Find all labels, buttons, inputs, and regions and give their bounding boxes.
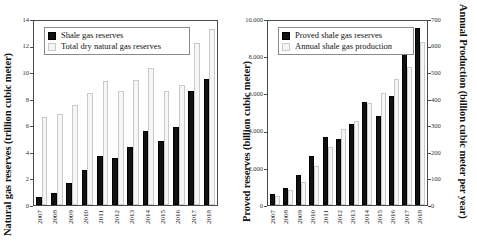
bar-2011-secondary bbox=[328, 147, 333, 205]
right-chart-secondary-axis-title: Annual Production (billion cubic meter p… bbox=[458, 4, 469, 247]
right-chart-right-y-tick-label: 700 bbox=[431, 17, 457, 24]
right-chart-left-y-tick-mark bbox=[264, 57, 267, 58]
bar-2013-secondary bbox=[354, 121, 359, 205]
left-chart-y-tick-mark bbox=[30, 47, 33, 48]
left-chart-x-tick-label: 2010 bbox=[83, 210, 90, 224]
right-chart-x-tick-label: 2015 bbox=[377, 210, 384, 224]
right-chart-panel: Proved reserves (billion cubic meter) 02… bbox=[240, 0, 477, 251]
right-chart-left-y-tick-mark bbox=[264, 132, 267, 133]
right-chart-legend-entry: Annual shale gas production bbox=[282, 41, 409, 52]
right-chart-right-y-tick-label: 100 bbox=[431, 176, 457, 183]
left-chart-y-tick-mark bbox=[30, 73, 33, 74]
right-chart-right-y-tick-label: 300 bbox=[431, 123, 457, 130]
right-chart-x-tick-label: 2010 bbox=[310, 210, 317, 224]
right-chart-right-y-tick-mark bbox=[428, 206, 431, 207]
right-chart-x-tick-label: 2013 bbox=[350, 210, 357, 224]
right-chart-y-axis-title: Proved reserves (billion cubic meter) bbox=[241, 22, 252, 222]
bar-2014-secondary bbox=[148, 68, 154, 205]
bar-2017-secondary bbox=[407, 67, 412, 205]
right-chart-left-y-tick-label: 10.000 bbox=[237, 17, 263, 24]
right-chart-legend-entry: Proved shale gas reserves bbox=[282, 30, 409, 41]
left-chart-legend-entry: Total dry natural gas reserves bbox=[48, 41, 185, 52]
bar-2015-secondary bbox=[381, 93, 386, 205]
left-chart-y-tick-label: 14 bbox=[3, 17, 29, 24]
bar-2012-secondary bbox=[341, 129, 346, 205]
bar-2013-secondary bbox=[133, 80, 139, 205]
left-chart-y-tick-mark bbox=[30, 126, 33, 127]
right-chart-right-y-tick-mark bbox=[428, 47, 431, 48]
left-chart-x-tick-label: 2016 bbox=[175, 210, 182, 224]
right-chart-x-tick-label: 2008 bbox=[283, 210, 290, 224]
left-chart-y-tick-mark bbox=[30, 20, 33, 21]
figure-page: Natural gas reserves (trillion cubic met… bbox=[0, 0, 477, 251]
left-chart-y-tick-mark bbox=[30, 179, 33, 180]
right-chart-x-tick-label: 2011 bbox=[323, 210, 330, 224]
right-chart-x-tick-label: 2018 bbox=[417, 210, 424, 224]
bar-2008-secondary bbox=[57, 114, 63, 205]
right-chart-right-y-tick-label: 200 bbox=[431, 150, 457, 157]
left-chart-y-tick-label: 2 bbox=[3, 176, 29, 183]
right-chart-left-y-tick-label: 6.000 bbox=[237, 91, 263, 98]
bar-2007-secondary bbox=[275, 196, 280, 205]
right-chart-x-tick-label: 2012 bbox=[337, 210, 344, 224]
right-chart-left-y-tick-label: 0 bbox=[237, 203, 263, 210]
left-chart-y-tick-mark bbox=[30, 153, 33, 154]
left-chart-y-tick-mark bbox=[30, 100, 33, 101]
left-chart-y-tick-label: 6 bbox=[3, 123, 29, 130]
right-chart-legend: Proved shale gas reservesAnnual shale ga… bbox=[278, 27, 414, 55]
left-chart-x-tick-label: 2015 bbox=[160, 210, 167, 224]
right-chart-x-tick-label: 2009 bbox=[297, 210, 304, 224]
right-chart-left-y-tick-mark bbox=[264, 94, 267, 95]
right-chart-right-y-tick-mark bbox=[428, 153, 431, 154]
bar-2009-secondary bbox=[301, 182, 306, 205]
left-chart-y-tick-label: 0 bbox=[3, 203, 29, 210]
left-chart-x-tick-label: 2007 bbox=[37, 210, 44, 224]
right-chart-right-y-tick-mark bbox=[428, 100, 431, 101]
left-chart-x-tick-label: 2017 bbox=[191, 210, 198, 224]
right-chart-right-y-tick-label: 0 bbox=[431, 203, 457, 210]
right-chart-legend-label: Annual shale gas production bbox=[295, 42, 392, 51]
bar-2008-secondary bbox=[288, 190, 293, 205]
legend-light-swatch-icon bbox=[282, 43, 290, 51]
right-chart-right-y-tick-mark bbox=[428, 126, 431, 127]
right-chart-left-y-tick-mark bbox=[264, 20, 267, 21]
left-chart-x-tick-label: 2014 bbox=[145, 210, 152, 224]
bar-2014-secondary bbox=[367, 103, 372, 206]
right-chart-x-tick-label: 2016 bbox=[390, 210, 397, 224]
right-chart-left-y-tick-mark bbox=[264, 206, 267, 207]
right-chart-x-tick-label: 2014 bbox=[364, 210, 371, 224]
right-chart-right-y-tick-label: 600 bbox=[431, 43, 457, 50]
legend-dark-swatch-icon bbox=[282, 32, 290, 40]
bar-2012-secondary bbox=[118, 91, 124, 205]
right-chart-left-y-tick-label: 4.000 bbox=[237, 128, 263, 135]
right-chart-right-y-tick-label: 500 bbox=[431, 70, 457, 77]
bar-2015-secondary bbox=[164, 91, 170, 205]
right-chart-left-y-tick-mark bbox=[264, 169, 267, 170]
left-chart-y-tick-mark bbox=[30, 206, 33, 207]
left-chart-x-tick-label: 2011 bbox=[98, 210, 105, 224]
left-chart-legend-label: Shale gas reserves bbox=[61, 31, 123, 40]
bar-2007-secondary bbox=[42, 117, 48, 205]
legend-dark-swatch-icon bbox=[48, 32, 56, 40]
left-chart-y-tick-label: 8 bbox=[3, 97, 29, 104]
left-chart-panel: Natural gas reserves (trillion cubic met… bbox=[0, 0, 237, 251]
bar-2018-secondary bbox=[209, 29, 215, 205]
right-chart-left-y-tick-label: 2.000 bbox=[237, 166, 263, 173]
bar-2018-secondary bbox=[420, 42, 425, 205]
left-chart-legend: Shale gas reservesTotal dry natural gas … bbox=[44, 27, 190, 55]
right-chart-right-y-tick-label: 400 bbox=[431, 97, 457, 104]
right-chart-left-y-tick-label: 8.000 bbox=[237, 54, 263, 61]
left-chart-legend-entry: Shale gas reserves bbox=[48, 30, 185, 41]
left-chart-x-tick-label: 2008 bbox=[52, 210, 59, 224]
bar-2016-secondary bbox=[394, 79, 399, 205]
legend-light-swatch-icon bbox=[48, 43, 56, 51]
right-chart-legend-label: Proved shale gas reserves bbox=[295, 31, 382, 40]
left-chart-x-tick-label: 2012 bbox=[114, 210, 121, 224]
right-chart-x-tick-label: 2017 bbox=[404, 210, 411, 224]
left-chart-y-tick-label: 12 bbox=[3, 43, 29, 50]
right-chart-right-y-tick-mark bbox=[428, 179, 431, 180]
left-chart-x-tick-label: 2013 bbox=[129, 210, 136, 224]
right-chart-right-y-tick-mark bbox=[428, 73, 431, 74]
left-chart-legend-label: Total dry natural gas reserves bbox=[61, 42, 161, 51]
left-chart-x-tick-label: 2009 bbox=[68, 210, 75, 224]
